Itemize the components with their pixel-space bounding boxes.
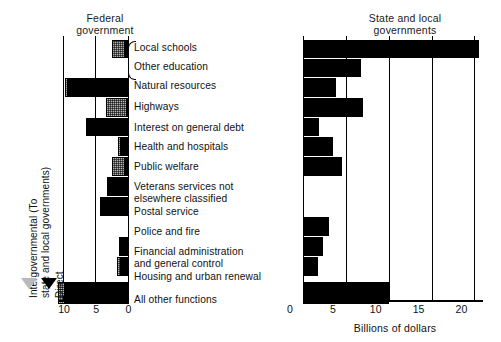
state-bar-segment-direct: [303, 137, 333, 156]
state-bar: [303, 137, 483, 156]
federal-bar-segment-direct: [107, 177, 128, 196]
state-tickmark-10: [389, 296, 390, 301]
state-bar: [303, 40, 483, 58]
state-tick-label-15: 15: [406, 303, 432, 315]
federal-bar-segment-intergovernmental: [112, 157, 125, 176]
state-axis-rule: [303, 300, 483, 302]
federal-bar: [58, 78, 129, 97]
federal-tickmark-0: [128, 296, 129, 301]
federal-bar-segment-direct: [127, 98, 128, 117]
state-bar: [303, 157, 483, 176]
federal-bar-segment-intergovernmental: [118, 137, 121, 156]
state-bar: [303, 237, 483, 256]
state-tick-label-5: 5: [320, 303, 346, 315]
federal-bar-segment-direct: [121, 257, 128, 276]
federal-bar: [58, 157, 129, 176]
category-label: Interest on general debt: [134, 122, 244, 134]
category-label: Health and hospitals: [134, 141, 228, 153]
federal-bar: [58, 237, 129, 256]
category-label: Highways: [134, 101, 179, 113]
state-bar: [303, 98, 483, 117]
state-bar-segment-direct: [303, 217, 329, 236]
state-bar-segment-direct: [303, 237, 323, 256]
state-plot-area: [303, 36, 483, 300]
state-tickmark-0: [303, 296, 304, 301]
category-label: Local schools: [134, 42, 197, 54]
state-bar-segment-direct: [303, 257, 318, 276]
category-label: Public welfare: [134, 161, 199, 173]
category-label: All other functions: [134, 294, 217, 306]
state-title-line1: State and local: [330, 12, 480, 24]
state-bar: [303, 59, 483, 77]
federal-tick-label-5: 5: [83, 303, 109, 315]
category-label: Police and fire: [134, 226, 200, 238]
state-bar: [303, 257, 483, 276]
state-title-line2: governments: [330, 24, 480, 36]
state-bar-segment-direct: [303, 98, 363, 117]
state-tickmark-15: [432, 296, 433, 301]
federal-bar-segment-intergovernmental: [65, 78, 68, 97]
federal-bar: [58, 177, 129, 196]
federal-bar: [58, 197, 129, 216]
state-bar-segment-direct: [303, 40, 479, 58]
category-label: Other education: [134, 61, 208, 73]
federal-bar-segment-direct: [100, 197, 128, 216]
chart-figure: Federal government State and local gover…: [0, 0, 501, 342]
state-bar-segment-direct: [303, 59, 361, 77]
federal-bar-segment-intergovernmental: [117, 257, 122, 276]
state-tickmark-20: [474, 296, 475, 301]
state-bar-segment-direct: [303, 78, 336, 97]
federal-title-line1: Federal: [40, 12, 170, 24]
state-panel-title: State and local governments: [330, 12, 480, 36]
federal-bar-segment-intergovernmental: [112, 40, 124, 58]
state-tick-label-10: 10: [363, 303, 389, 315]
state-bar: [303, 78, 483, 97]
legend-intergovernmental-arrow-icon: [21, 278, 37, 289]
federal-tickmark-5: [95, 296, 96, 301]
federal-plot-area: [58, 36, 129, 300]
state-tick-label-20: 20: [448, 303, 474, 315]
legend-direct-arrow-icon: [41, 278, 57, 289]
category-label-list: Local schoolsOther educationNatural reso…: [134, 36, 286, 304]
federal-bar-segment-direct: [125, 157, 128, 176]
federal-bar: [58, 40, 129, 58]
federal-bar-segment-intergovernmental: [106, 98, 127, 117]
federal-panel-title: Federal government: [40, 12, 170, 36]
federal-bar: [58, 137, 129, 156]
state-bar-segment-direct: [303, 118, 319, 136]
federal-bar-segment-direct: [86, 118, 129, 136]
federal-bar-segment-direct: [121, 137, 129, 156]
state-tickmark-5: [346, 296, 347, 301]
state-tick-label-0: 0: [277, 303, 303, 315]
federal-bar-segment-direct: [68, 78, 128, 97]
federal-bar: [58, 98, 129, 117]
federal-axis-rule: [58, 300, 129, 302]
category-label: Veterans services not elsewhere classifi…: [134, 181, 234, 204]
category-label: Postal service: [134, 206, 199, 218]
state-bar: [303, 118, 483, 136]
state-bar-segment-direct: [303, 157, 342, 176]
federal-bar-segment-direct: [119, 237, 129, 256]
federal-title-line2: government: [40, 24, 170, 36]
category-label: Financial administration and general con…: [134, 246, 243, 269]
category-label: Natural resources: [134, 80, 216, 92]
state-bar: [303, 217, 483, 236]
federal-bar: [58, 118, 129, 136]
federal-bar: [58, 257, 129, 276]
x-axis-label: Billions of dollars: [330, 322, 460, 334]
category-label: Housing and urban renewal: [134, 271, 261, 283]
